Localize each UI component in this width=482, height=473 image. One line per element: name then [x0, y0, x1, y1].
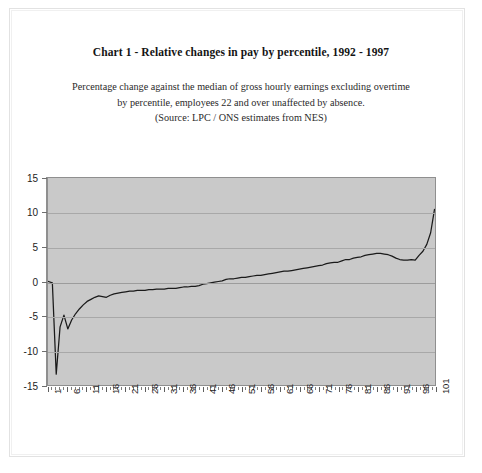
x-tick-label: 66: [304, 384, 315, 394]
x-major-tick: [300, 387, 301, 392]
x-minor-tick: [82, 387, 83, 390]
page-title: Chart 1 - Relative changes in pay by per…: [0, 46, 482, 58]
x-tick-label: 56: [265, 384, 276, 394]
x-major-tick: [125, 387, 126, 392]
chart-figure: 151050-5-10-15 1611162126313641465156616…: [0, 160, 482, 410]
x-minor-tick: [335, 387, 336, 390]
x-major-tick: [242, 387, 243, 392]
x-tick-label: 21: [129, 384, 140, 394]
x-minor-tick: [432, 387, 433, 390]
x-tick-label: 101: [440, 379, 451, 394]
x-minor-tick: [160, 387, 161, 390]
y-tick-label: 15: [27, 172, 38, 183]
x-major-tick: [358, 387, 359, 392]
x-minor-tick: [179, 387, 180, 390]
x-major-tick: [48, 387, 49, 392]
x-minor-tick: [121, 387, 122, 390]
x-major-tick: [319, 387, 320, 392]
x-tick-label: 96: [420, 384, 431, 394]
x-tick-label: 81: [362, 384, 373, 394]
x-major-tick: [377, 387, 378, 392]
y-tick-label: 10: [27, 207, 38, 218]
x-tick-label: 1: [52, 389, 63, 394]
x-major-tick: [397, 387, 398, 392]
x-major-tick: [261, 387, 262, 392]
x-tick-label: 11: [90, 385, 101, 394]
x-minor-tick: [238, 387, 239, 390]
y-tick-label: -5: [29, 311, 38, 322]
x-major-tick: [183, 387, 184, 392]
x-tick-label: 86: [381, 384, 392, 394]
x-minor-tick: [412, 387, 413, 390]
x-major-tick: [280, 387, 281, 392]
x-major-tick: [86, 387, 87, 392]
x-minor-tick: [373, 387, 374, 390]
x-tick-label: 31: [168, 384, 179, 394]
x-minor-tick: [63, 387, 64, 390]
subtitle-line-3: (Source: LPC / ONS estimates from NES): [0, 110, 482, 126]
x-tick-label: 61: [284, 384, 295, 394]
x-minor-tick: [218, 387, 219, 390]
x-major-tick: [416, 387, 417, 392]
x-tick-label: 76: [343, 384, 354, 394]
x-major-tick: [67, 387, 68, 392]
x-minor-tick: [354, 387, 355, 390]
y-tick-label: -10: [24, 345, 38, 356]
x-tick-label: 26: [149, 384, 160, 394]
x-tick-label: 36: [187, 384, 198, 394]
x-minor-tick: [296, 387, 297, 390]
x-major-tick: [339, 387, 340, 392]
x-tick-label: 51: [246, 384, 257, 394]
x-tick-label: 91: [401, 384, 412, 394]
y-tick-label: -15: [24, 380, 38, 391]
x-minor-tick: [102, 387, 103, 390]
x-minor-tick: [257, 387, 258, 390]
y-axis: 151050-5-10-15: [0, 177, 47, 386]
x-major-tick: [203, 387, 204, 392]
x-tick-label: 16: [110, 384, 121, 394]
chart-page: Chart 1 - Relative changes in pay by per…: [0, 0, 482, 473]
x-major-tick: [222, 387, 223, 392]
subtitle-line-2: by percentile, employees 22 and over una…: [0, 95, 482, 111]
subtitle-line-1: Percentage change against the median of …: [0, 79, 482, 95]
x-major-tick: [436, 387, 437, 392]
x-major-tick: [106, 387, 107, 392]
x-tick-label: 6: [71, 389, 82, 394]
x-tick-label: 46: [226, 384, 237, 394]
x-minor-tick: [199, 387, 200, 390]
x-minor-tick: [315, 387, 316, 390]
chart-subtitle: Percentage change against the median of …: [0, 79, 482, 126]
x-tick-label: 71: [323, 384, 334, 394]
x-minor-tick: [276, 387, 277, 390]
x-major-tick: [145, 387, 146, 392]
y-tick-label: 0: [32, 276, 38, 287]
x-minor-tick: [393, 387, 394, 390]
x-minor-tick: [141, 387, 142, 390]
x-major-tick: [164, 387, 165, 392]
x-tick-label: 41: [207, 384, 218, 394]
y-tick-label: 5: [32, 241, 38, 252]
x-axis: 1611162126313641465156616671768186919610…: [47, 160, 436, 410]
